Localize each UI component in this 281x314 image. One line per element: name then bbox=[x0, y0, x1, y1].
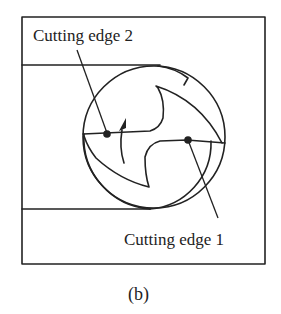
cutting-edge-2-point bbox=[103, 130, 111, 138]
figure-caption: (b) bbox=[128, 284, 149, 305]
outer-frame bbox=[22, 17, 265, 264]
leader-line-edge-2 bbox=[77, 50, 107, 133]
rotation-arrow bbox=[121, 130, 124, 163]
cutting-edge-2-label: Cutting edge 2 bbox=[33, 26, 133, 45]
cutting-edge-1-point bbox=[184, 136, 192, 144]
milling-diagram: Cutting edge 2 Cutting edge 1 (b) bbox=[0, 0, 281, 314]
cutting-edge-1-label: Cutting edge 1 bbox=[124, 230, 224, 249]
inner-trace-arc bbox=[84, 134, 150, 209]
tool-circle bbox=[83, 66, 225, 208]
rotation-arrow-head bbox=[119, 118, 126, 131]
cutter-line-lower bbox=[84, 136, 225, 187]
notch bbox=[158, 66, 188, 85]
leader-line-edge-1 bbox=[188, 140, 218, 218]
